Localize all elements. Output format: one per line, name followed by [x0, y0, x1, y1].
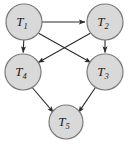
graph-node-t5[interactable]: T5	[49, 105, 83, 139]
graph-svg-root: T1 T2 T3 T4	[0, 0, 132, 146]
nodes-layer: T1 T2 T3 T4	[5, 4, 123, 139]
node-label-sub-t5: 5	[65, 120, 69, 130]
edge-t4-to-t5	[32, 88, 53, 113]
graph-node-t1[interactable]: T1	[6, 4, 42, 40]
graph-node-t2[interactable]: T2	[87, 4, 123, 40]
graph-figure: T1 T2 T3 T4	[0, 0, 132, 146]
edge-t3-to-t5	[79, 88, 96, 113]
graph-node-t3[interactable]: T3	[87, 54, 123, 90]
node-label-sub-t4: 4	[22, 70, 27, 80]
edge-t1-to-t4	[23, 40, 24, 53]
graph-node-t4[interactable]: T4	[5, 54, 41, 90]
node-label-sub-t2: 2	[104, 20, 109, 30]
node-label-sub-t3: 3	[103, 70, 108, 80]
node-label-sub-t1: 1	[23, 20, 27, 30]
